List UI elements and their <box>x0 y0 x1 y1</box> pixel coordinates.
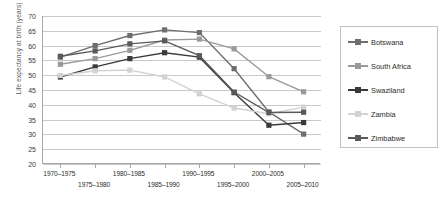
y-axis-tick-label: 70 <box>6 13 36 20</box>
x-axis-tick <box>60 164 61 168</box>
series-layer <box>43 16 321 164</box>
legend-item-zimbabwe[interactable]: Zimbabwe <box>348 132 405 144</box>
legend-item-label: Zambia <box>371 110 396 119</box>
data-point-marker <box>93 43 98 48</box>
x-axis-tick-label: 1970–1975 <box>43 170 75 177</box>
data-point-marker <box>232 66 237 71</box>
x-axis-tick <box>95 164 96 168</box>
x-axis-tick-label: 1985–1990 <box>148 181 180 188</box>
legend-item-label: Zimbabwe <box>371 134 405 143</box>
legend-item-botswana[interactable]: Botswana <box>348 36 403 48</box>
data-point-marker <box>232 89 237 94</box>
data-point-marker <box>162 27 167 32</box>
data-point-marker <box>93 48 98 53</box>
x-axis-tick <box>165 164 166 168</box>
data-point-marker <box>162 74 167 79</box>
data-point-marker <box>127 48 132 53</box>
y-axis-tick-label: 50 <box>6 72 36 79</box>
y-axis-tick-label: 60 <box>6 42 36 49</box>
legend-line-swatch <box>348 89 368 91</box>
x-axis-tick-label: 1995–2000 <box>217 181 249 188</box>
y-axis-tick-label: 20 <box>6 161 36 168</box>
data-point-marker <box>232 46 237 51</box>
x-axis-tick <box>130 164 131 168</box>
line-chart: Life expectancy at birth (years) 2025303… <box>0 0 443 201</box>
legend-line-swatch <box>348 65 368 67</box>
x-axis-tick-label: 1980–1985 <box>113 170 145 177</box>
data-point-marker <box>58 73 63 78</box>
legend-marker-icon <box>355 135 361 141</box>
legend: BotswanaSouth AfricaSwazilandZambiaZimba… <box>340 26 438 148</box>
data-point-marker <box>232 105 237 110</box>
data-point-marker <box>93 68 98 73</box>
y-axis-tick-label: 30 <box>6 131 36 138</box>
legend-item-south-africa[interactable]: South Africa <box>348 60 411 72</box>
data-point-marker <box>266 123 271 128</box>
data-point-marker <box>301 89 306 94</box>
y-axis-tick-label: 65 <box>6 27 36 34</box>
legend-item-label: South Africa <box>371 62 411 71</box>
legend-marker-icon <box>355 39 361 45</box>
legend-item-swaziland[interactable]: Swaziland <box>348 84 405 96</box>
data-point-marker <box>58 54 63 59</box>
data-point-marker <box>127 33 132 38</box>
legend-marker-icon <box>355 87 361 93</box>
data-point-marker <box>266 74 271 79</box>
y-axis-tick-label: 40 <box>6 101 36 108</box>
y-axis-tick-label: 35 <box>6 116 36 123</box>
data-point-marker <box>197 30 202 35</box>
x-axis-tick <box>304 164 305 168</box>
plot-area <box>42 16 320 164</box>
data-point-marker <box>197 53 202 58</box>
data-point-marker <box>58 62 63 67</box>
legend-item-label: Botswana <box>371 38 403 47</box>
x-axis-tick <box>234 164 235 168</box>
legend-item-zambia[interactable]: Zambia <box>348 108 396 120</box>
legend-line-swatch <box>348 137 368 139</box>
data-point-marker <box>127 56 132 61</box>
data-point-marker <box>301 105 306 110</box>
legend-marker-icon <box>355 111 361 117</box>
y-axis-tick-label: 55 <box>6 57 36 64</box>
legend-marker-icon <box>355 63 361 69</box>
data-point-marker <box>162 50 167 55</box>
legend-item-label: Swaziland <box>371 86 405 95</box>
x-axis-tick-label: 2000–2005 <box>252 170 284 177</box>
x-axis-tick <box>269 164 270 168</box>
x-axis-tick <box>199 164 200 168</box>
gridline <box>43 164 321 165</box>
y-axis-tick-label: 45 <box>6 87 36 94</box>
data-point-marker <box>197 36 202 41</box>
x-axis-tick-label: 1990–1995 <box>182 170 214 177</box>
series-botswana <box>58 27 306 136</box>
data-point-marker <box>197 91 202 96</box>
x-axis-tick-label: 1975–1980 <box>78 181 110 188</box>
data-point-marker <box>301 132 306 137</box>
data-point-marker <box>93 56 98 61</box>
x-axis-tick-label: 2005–2010 <box>287 181 319 188</box>
legend-line-swatch <box>348 41 368 43</box>
data-point-marker <box>127 68 132 73</box>
data-point-marker <box>266 110 271 115</box>
data-point-marker <box>162 38 167 43</box>
y-axis-tick-label: 25 <box>6 146 36 153</box>
data-point-marker <box>127 41 132 46</box>
data-point-marker <box>301 110 306 115</box>
legend-line-swatch <box>348 113 368 115</box>
data-point-marker <box>301 120 306 125</box>
